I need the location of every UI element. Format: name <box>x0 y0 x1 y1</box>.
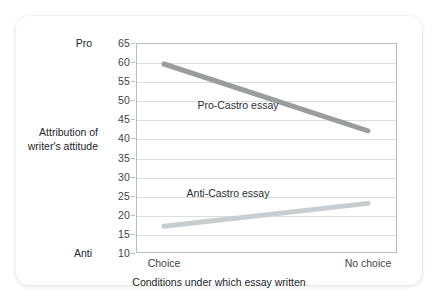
y-axis-tick-mark <box>131 43 135 44</box>
y-axis-tick-label: 20 <box>118 209 130 221</box>
y-axis-tick-mark <box>131 100 135 101</box>
y-axis-tick-mark <box>131 119 135 120</box>
y-pole-label-high: Pro <box>76 37 92 49</box>
y-axis-tick-mark <box>131 158 135 159</box>
chart-figure: Pro Anti Attribution of writer's attitud… <box>0 0 438 301</box>
series-line-1 <box>164 64 368 131</box>
y-axis-tick-label: 15 <box>118 228 130 240</box>
y-axis-tick-mark <box>131 62 135 63</box>
x-axis-tick-label: No choice <box>345 257 392 269</box>
y-pole-label-low: Anti <box>74 247 92 259</box>
x-axis-tick-label: Choice <box>148 257 181 269</box>
series-annotation-1: Pro-Castro essay <box>197 99 278 111</box>
y-axis-title-line1: Attribution of <box>8 126 98 140</box>
y-axis-tick-label: 25 <box>118 190 130 202</box>
y-axis-tick-mark <box>131 215 135 216</box>
y-axis-title: Attribution of writer's attitude <box>8 126 98 153</box>
y-axis-tick-label: 40 <box>118 132 130 144</box>
x-axis-title: Conditions under which essay written <box>0 276 438 288</box>
series-annotation-2: Anti-Castro essay <box>187 187 270 199</box>
y-axis-tick-mark <box>131 196 135 197</box>
y-axis-tick-mark <box>131 138 135 139</box>
y-axis-title-line2: writer's attitude <box>8 140 98 154</box>
y-axis-tick-mark <box>131 81 135 82</box>
y-axis-tick-label: 65 <box>118 37 130 49</box>
y-axis-tick-mark <box>131 234 135 235</box>
y-axis-tick-label: 60 <box>118 56 130 68</box>
y-axis-tick-label: 45 <box>118 113 130 125</box>
y-axis-tick-label: 50 <box>118 94 130 106</box>
y-axis-tick-mark <box>131 177 135 178</box>
y-axis-tick-label: 35 <box>118 152 130 164</box>
y-axis-tick-labels: 101520253035404550556065 <box>100 43 130 253</box>
y-axis-tick-mark <box>131 253 135 254</box>
series-line-2 <box>164 203 368 226</box>
y-axis-tick-label: 10 <box>118 247 130 259</box>
y-axis-tick-label: 30 <box>118 171 130 183</box>
y-axis-tick-label: 55 <box>118 75 130 87</box>
series-layer <box>136 43 397 253</box>
